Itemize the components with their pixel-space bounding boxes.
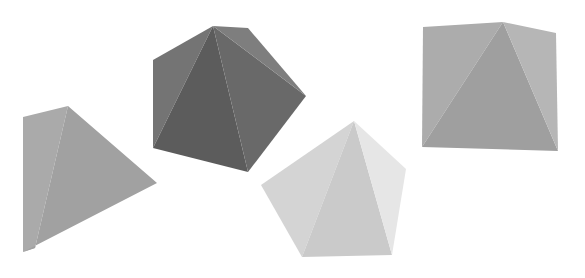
scene-canvas <box>0 0 585 278</box>
pyramid-1 <box>23 106 157 252</box>
pyramid-3 <box>261 121 406 257</box>
pyramid-2 <box>153 26 306 172</box>
pyramid-4 <box>422 22 558 151</box>
